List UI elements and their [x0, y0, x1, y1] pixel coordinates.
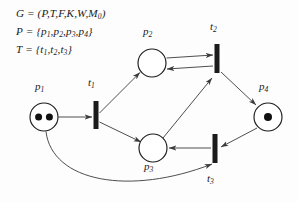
place-label-p4: p4: [259, 80, 268, 94]
token: [46, 114, 53, 121]
arc-t2-p2: [167, 66, 213, 69]
place-label-p3: p3: [144, 160, 153, 174]
arc-t1-p2: [100, 73, 141, 114]
subscript-zero: 0: [98, 12, 102, 21]
token: [35, 114, 42, 121]
arc-t2-p4: [221, 72, 256, 105]
transition-t2[interactable]: [215, 44, 220, 73]
arc-t1-p3: [100, 122, 142, 142]
arc-p2-t2: [167, 55, 214, 58]
place-p1[interactable]: [30, 103, 58, 131]
definition-line-transitions: T = {t1,t2,t3}: [16, 42, 106, 60]
definition-line-places: P = {p1,p2,p3,p4}: [16, 24, 106, 42]
transition-label-t2: t2: [210, 20, 217, 34]
places-layer: [30, 49, 282, 162]
transition-label-t3: t3: [207, 172, 214, 186]
arc-p1-t3: [46, 132, 212, 182]
net-definition: G = (P,T,F,K,W,M0) P = {p1,p2,p3,p4} T =…: [16, 6, 106, 61]
token: [264, 113, 272, 121]
transition-label-t1: t1: [88, 76, 95, 90]
arc-p4-t3: [221, 128, 257, 147]
transition-t3[interactable]: [213, 134, 218, 163]
definition-line-tuple: G = (P,T,F,K,W,M0): [16, 6, 106, 24]
place-label-p2: p2: [143, 25, 152, 39]
arc-p3-t2: [163, 78, 212, 138]
place-p2[interactable]: [138, 49, 166, 77]
place-label-p1: p1: [35, 80, 44, 94]
petri-net-figure: G = (P,T,F,K,W,M0) P = {p1,p2,p3,p4} T =…: [0, 0, 298, 202]
place-p3[interactable]: [139, 134, 167, 162]
transition-t1[interactable]: [94, 101, 99, 129]
